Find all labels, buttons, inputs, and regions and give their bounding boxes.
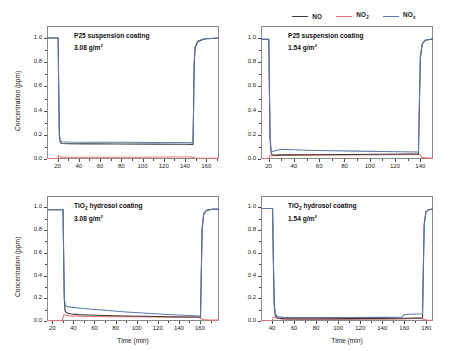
- series-line-no: [261, 209, 433, 319]
- figure-root: NO NO2 NOx 0.00.20.40.60.81.020406080100…: [0, 0, 472, 351]
- series-layer: [0, 0, 472, 351]
- series-line-nox: [261, 209, 433, 318]
